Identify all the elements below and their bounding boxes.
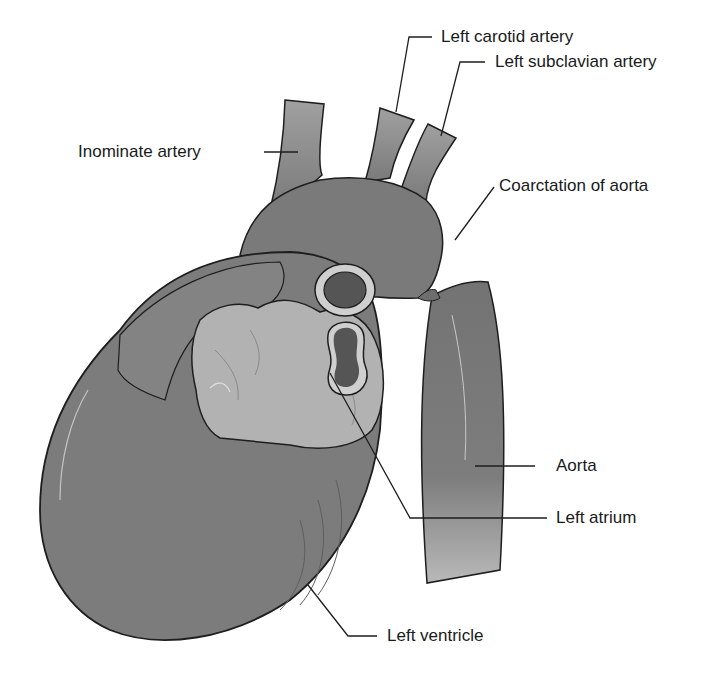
left-carotid-artery-vessel [365,108,414,182]
descending-aorta [422,282,504,583]
heart-diagram [0,0,725,700]
label-left-carotid-artery: Left carotid artery [441,27,573,47]
label-left-ventricle: Left ventricle [387,626,483,646]
label-coarctation-of-aorta: Coarctation of aorta [499,176,648,196]
label-aorta: Aorta [556,456,597,476]
label-inominate-artery: Inominate artery [78,142,201,162]
label-left-atrium: Left atrium [556,508,636,528]
label-left-subclavian-artery: Left subclavian artery [495,52,657,72]
